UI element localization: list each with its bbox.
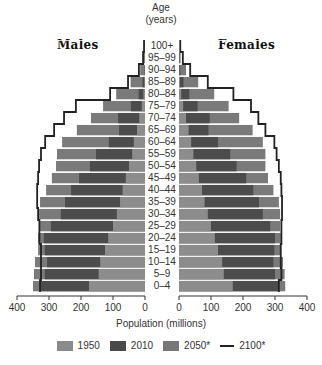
bar-male-1950 bbox=[99, 269, 145, 280]
bar-female-1950 bbox=[179, 281, 233, 292]
bar-female-1950 bbox=[179, 137, 191, 148]
bar-female-1950 bbox=[179, 185, 202, 196]
age-group-label: 85–89 bbox=[147, 76, 177, 88]
bar-male-1950 bbox=[126, 173, 145, 184]
age-group-label: 10–14 bbox=[147, 256, 177, 268]
age-group-label: 65–69 bbox=[147, 124, 177, 136]
bar-female-1950 bbox=[179, 209, 208, 220]
x-tick-label-right: 0 bbox=[164, 302, 194, 313]
bar-male-1950 bbox=[120, 197, 145, 208]
age-group-label: 30–34 bbox=[147, 208, 177, 220]
bar-female-1950 bbox=[179, 221, 211, 232]
bar-female-1950 bbox=[179, 101, 183, 112]
x-tick-label-left: 200 bbox=[66, 302, 96, 313]
bar-female-1950 bbox=[179, 245, 218, 256]
x-axis-title: Population (millions) bbox=[0, 318, 322, 329]
bar-male-1950 bbox=[100, 257, 145, 268]
bar-female-1950 bbox=[179, 233, 215, 244]
bar-male-1950 bbox=[117, 209, 145, 220]
age-group-label: 15–19 bbox=[147, 244, 177, 256]
age-group-label: 70–74 bbox=[147, 112, 177, 124]
x-tick-label-right: 300 bbox=[260, 302, 290, 313]
bar-male-1950 bbox=[132, 149, 145, 160]
age-group-label: 50–54 bbox=[147, 160, 177, 172]
bar-male-1950 bbox=[144, 77, 145, 88]
bar-male-1950 bbox=[143, 89, 145, 100]
bar-male-2050 bbox=[140, 65, 145, 76]
legend-item-2050: 2050* bbox=[163, 340, 210, 351]
bar-male-1950 bbox=[123, 185, 145, 196]
legend: 1950 2010 2050* 2100* bbox=[0, 340, 322, 351]
legend-item-2100: 2100* bbox=[220, 340, 265, 351]
bar-male-1950 bbox=[137, 125, 145, 136]
legend-item-1950: 1950 bbox=[57, 340, 100, 351]
bar-male-1950 bbox=[89, 281, 145, 292]
bar-female-1950 bbox=[179, 257, 222, 268]
bar-male-1950 bbox=[139, 113, 145, 124]
age-group-label: 25–29 bbox=[147, 220, 177, 232]
age-group-label: 40–44 bbox=[147, 184, 177, 196]
legend-swatch-1950 bbox=[57, 341, 73, 351]
bar-male-2050 bbox=[144, 53, 145, 64]
age-group-label: 20–24 bbox=[147, 232, 177, 244]
x-tick-label-left: 400 bbox=[2, 302, 32, 313]
age-group-label: 45–49 bbox=[147, 172, 177, 184]
legend-item-2010: 2010 bbox=[110, 340, 153, 351]
legend-label-2100: 2100* bbox=[239, 340, 265, 351]
legend-swatch-2050 bbox=[163, 341, 179, 351]
bar-female-1950 bbox=[179, 149, 193, 160]
bar-female-1950 bbox=[179, 197, 205, 208]
age-group-label: 0–4 bbox=[147, 280, 177, 292]
age-group-label: 100+ bbox=[147, 40, 177, 52]
x-tick-label-left: 0 bbox=[130, 302, 160, 313]
bar-female-1950 bbox=[179, 173, 199, 184]
age-group-label: 80–84 bbox=[147, 88, 177, 100]
x-tick-label-left: 300 bbox=[34, 302, 64, 313]
bar-male-1950 bbox=[134, 137, 145, 148]
bar-male-1950 bbox=[113, 221, 145, 232]
age-group-label: 75–79 bbox=[147, 100, 177, 112]
bar-female-1950 bbox=[179, 89, 181, 100]
age-group-label: 5–9 bbox=[147, 268, 177, 280]
legend-label-2050: 2050* bbox=[184, 340, 210, 351]
age-group-label: 35–39 bbox=[147, 196, 177, 208]
bar-male-1950 bbox=[129, 161, 145, 172]
age-group-label: 95–99 bbox=[147, 52, 177, 64]
age-group-label: 60–64 bbox=[147, 136, 177, 148]
x-tick-label-right: 200 bbox=[228, 302, 258, 313]
bar-female-1950 bbox=[179, 125, 189, 136]
bar-female-1950 bbox=[179, 269, 224, 280]
bar-male-1950 bbox=[105, 245, 145, 256]
legend-line-2100 bbox=[220, 345, 234, 347]
age-group-label: 55–59 bbox=[147, 148, 177, 160]
age-group-label: 90–94 bbox=[147, 64, 177, 76]
bar-male-1950 bbox=[142, 101, 145, 112]
bar-female-1950 bbox=[179, 161, 196, 172]
bar-male-1950 bbox=[108, 233, 145, 244]
x-tick-label-right: 400 bbox=[292, 302, 322, 313]
x-tick-label-right: 100 bbox=[196, 302, 226, 313]
legend-swatch-2010 bbox=[110, 341, 126, 351]
x-tick-label-left: 100 bbox=[98, 302, 128, 313]
bar-female-1950 bbox=[179, 77, 180, 88]
legend-label-1950: 1950 bbox=[78, 340, 100, 351]
bar-female-1950 bbox=[179, 113, 186, 124]
legend-label-2010: 2010 bbox=[131, 340, 153, 351]
